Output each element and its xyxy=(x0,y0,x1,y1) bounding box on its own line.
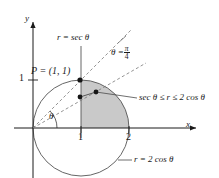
x-tick-label-1: 1 xyxy=(78,132,83,142)
point-on-circle xyxy=(94,90,99,95)
fraction-denominator: 4 xyxy=(124,53,130,61)
x-axis-label-text: x xyxy=(186,120,190,129)
y-tick-label-1: 1 xyxy=(19,73,24,83)
circle-equation-label: r = 2 cos θ xyxy=(134,155,174,164)
shaded-region xyxy=(81,80,129,128)
sec-theta-equation-label: r = sec θ xyxy=(57,33,89,42)
point-p xyxy=(77,77,82,82)
theta-label: θ xyxy=(49,112,53,121)
pi-over-4-fraction: π4 xyxy=(124,45,130,62)
ray-equation-text: θ = xyxy=(111,47,124,57)
x-tick-label-2: 2 xyxy=(126,132,131,142)
y-axis-label: y xyxy=(25,14,29,23)
inequality-label: sec θ ≤ r ≤ 2 cos θ xyxy=(139,93,205,102)
point-on-sec-line xyxy=(78,95,83,100)
ray-equation-label: θ =π4 xyxy=(111,45,130,62)
y-axis-arrowhead xyxy=(30,22,35,28)
polar-region-figure: x y 1 1 2 r = sec θ θ =π4 P = (1, 1) sec… xyxy=(0,0,219,178)
x-axis-arrowhead xyxy=(190,125,196,130)
figure-canvas xyxy=(0,0,219,178)
ray-label-leader xyxy=(118,36,126,43)
point-p-label: P = (1, 1) xyxy=(31,66,70,76)
